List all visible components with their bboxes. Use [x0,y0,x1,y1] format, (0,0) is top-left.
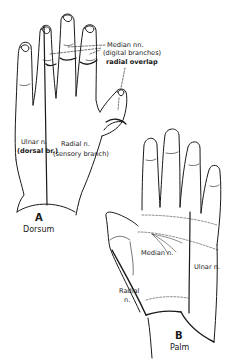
label-radial-sensory-branch: (sensory branch) [53,151,109,158]
label-radial-overlap: radial overlap [106,59,158,66]
nerve-distribution-diagram: Median nn. (digital branches) radial ove… [0,0,235,362]
label-median-digital-branches: (digital branches) [103,50,161,57]
label-median-nn: Median nn. [107,42,144,49]
figure-a-caption: Dorsum [23,226,54,234]
label-radial-n-dorsal: Radial n. [61,141,90,148]
label-ulnar-dorsal-branch: (dorsal br.) [17,148,58,155]
label-ulnar-n-palm: Ulnar n. [194,264,220,271]
palmar-hand-drawing [106,129,221,358]
label-median-n-palm: Median n. [141,250,173,257]
label-ulnar-n-dorsal: Ulnar n. [21,139,47,146]
figure-a-letter: A [35,213,43,223]
label-radial-palm: Radial [119,288,139,295]
figure-b-caption: Palm [170,344,189,352]
label-radial-n-palm: n. [124,297,130,304]
figure-b-letter: B [175,331,183,341]
